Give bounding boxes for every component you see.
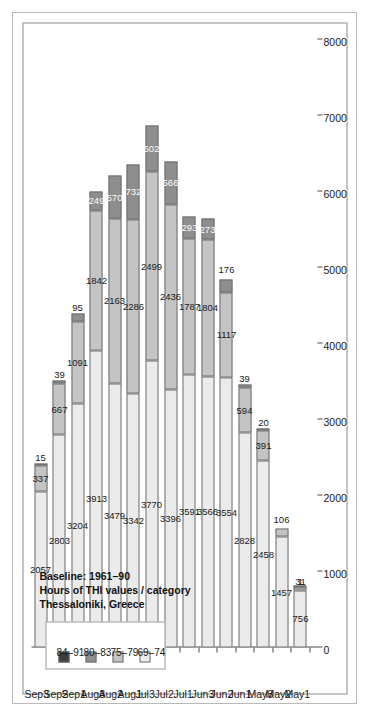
bar-value-label: 95: [72, 302, 83, 312]
category-axis-tick: [235, 647, 236, 652]
legend-item[interactable]: 75–79: [108, 620, 138, 668]
bar-segment[interactable]: 20: [256, 428, 269, 430]
chart-title-block: Thessaloniki, GreeceHours of THI values …: [39, 539, 189, 597]
bar-value-label: 391: [255, 441, 271, 451]
bar-segment[interactable]: 2828: [238, 432, 251, 647]
bar-segment[interactable]: 667: [52, 383, 65, 434]
legend-label: 80–83: [83, 646, 111, 657]
bar-segment[interactable]: 570: [108, 175, 121, 218]
value-axis-label: 3000: [323, 415, 346, 427]
bar-value-label: 756: [292, 614, 308, 624]
bar-value-label: 249: [88, 195, 104, 205]
bar-value-label: 176: [218, 265, 234, 275]
category-axis-tick: [179, 647, 180, 652]
bar-segment[interactable]: 2499: [145, 171, 158, 361]
bar-segment[interactable]: 566: [164, 161, 177, 204]
bar-row[interactable]: 756311: [293, 39, 306, 647]
bar-segment[interactable]: 3554: [219, 377, 232, 647]
bar-segment[interactable]: 756: [293, 590, 306, 647]
bar-segment[interactable]: 39: [52, 380, 65, 383]
value-axis-label: 5000: [323, 263, 346, 275]
bar-segment[interactable]: 3204: [71, 404, 84, 648]
category-axis-tick: [198, 647, 199, 652]
bar-segment[interactable]: 602: [145, 125, 158, 171]
chart-canvas: 010002000300040005000600070008000 May1Ma…: [22, 22, 347, 694]
legend-item[interactable]: 80–83: [81, 620, 111, 668]
category-axis-tick: [290, 647, 291, 652]
chart-title-line-3: Baseline: 1961–90: [39, 569, 129, 581]
bar-segment[interactable]: 293: [182, 216, 195, 238]
chart-page: 010002000300040005000600070008000 May1Ma…: [0, 0, 369, 716]
bar-segment[interactable]: 594: [238, 387, 251, 432]
bar-value-label: 3479: [104, 510, 125, 520]
legend-item[interactable]: 69–74: [135, 620, 165, 668]
category-axis-tick: [253, 647, 254, 652]
chart-title-line-1: Thessaloniki, Greece: [39, 597, 144, 609]
bar-value-label: 2436: [159, 292, 180, 302]
bar-row[interactable]: 245839120: [256, 39, 269, 647]
bar-segment[interactable]: 337: [34, 465, 47, 491]
bar-value-label: 732: [125, 187, 141, 197]
value-axis-tick: [317, 266, 322, 267]
bar-row[interactable]: 282859439: [238, 39, 251, 647]
bar-row[interactable]: 1457106: [275, 39, 288, 647]
bar-value-label: 1: [297, 577, 302, 587]
bar-value-label: 2163: [104, 296, 125, 306]
bar-segment[interactable]: 106: [275, 528, 288, 536]
value-axis-tick: [317, 646, 322, 647]
bar-value-label: 1842: [85, 275, 106, 285]
bar-segment[interactable]: 2458: [256, 460, 269, 647]
bar-row[interactable]: 35661804273: [201, 39, 214, 647]
category-axis-tick: [309, 647, 310, 652]
bar-value-label: 1091: [67, 357, 88, 367]
bar-segment[interactable]: 15: [34, 463, 47, 465]
value-axis-tick: [317, 570, 322, 571]
bar-value-label: 602: [144, 143, 160, 153]
bar-segment[interactable]: 3591: [182, 374, 195, 647]
bar-segment[interactable]: 3396: [164, 389, 177, 647]
bar-segment[interactable]: 39: [238, 384, 251, 387]
bar-segment[interactable]: 732: [126, 164, 139, 220]
bar-segment[interactable]: 1804: [201, 239, 214, 376]
value-axis-tick: [317, 190, 322, 191]
bar-segment[interactable]: 1457: [275, 536, 288, 647]
bar-value-label: 2286: [122, 301, 143, 311]
bar-value-label: 667: [51, 404, 67, 414]
bar-row[interactable]: 35541117176: [219, 39, 232, 647]
bar-value-label: 3770: [141, 499, 162, 509]
legend-item[interactable]: 84–91: [54, 620, 84, 668]
bar-value-label: 2828: [234, 535, 255, 545]
bar-segment[interactable]: 3566: [201, 376, 214, 647]
category-axis-tick: [216, 647, 217, 652]
value-axis-tick: [317, 418, 322, 419]
bar-segment[interactable]: 95: [71, 313, 84, 320]
value-axis-label: 2000: [323, 491, 346, 503]
bar-segment[interactable]: 2436: [164, 204, 177, 389]
bar-segment[interactable]: 391: [256, 431, 269, 461]
bar-segment[interactable]: 2286: [126, 219, 139, 393]
bar-segment[interactable]: 3770: [145, 360, 158, 647]
bar-value-label: 1457: [271, 587, 292, 597]
value-axis-label: 7000: [323, 111, 346, 123]
bar-segment[interactable]: 2163: [108, 218, 121, 382]
category-axis-tick: [272, 647, 273, 652]
bar-segment[interactable]: 1091: [71, 321, 84, 404]
bar-segment[interactable]: 1787: [182, 238, 195, 374]
bar-value-label: 2458: [252, 549, 273, 559]
bar-value-label: 273: [199, 224, 215, 234]
bar-segment[interactable]: 1117: [219, 292, 232, 377]
bar-value-label: 15: [35, 452, 46, 462]
bar-value-label: 3591: [178, 506, 199, 516]
bar-value-label: 3554: [215, 507, 236, 517]
bar-segment[interactable]: 176: [219, 279, 232, 292]
bar-segment[interactable]: 1: [293, 585, 306, 587]
bar-segment[interactable]: 273: [201, 218, 214, 239]
value-axis-label: 8000: [323, 35, 346, 47]
value-axis-tick: [317, 114, 322, 115]
category-label-sep3: Sep3: [24, 687, 49, 699]
bar-value-label: 39: [54, 369, 65, 379]
bar-segment[interactable]: 1842: [89, 210, 102, 350]
bar-value-label: 3396: [159, 513, 180, 523]
bar-segment[interactable]: 249: [89, 191, 102, 210]
legend-label: 84–91: [56, 646, 84, 657]
